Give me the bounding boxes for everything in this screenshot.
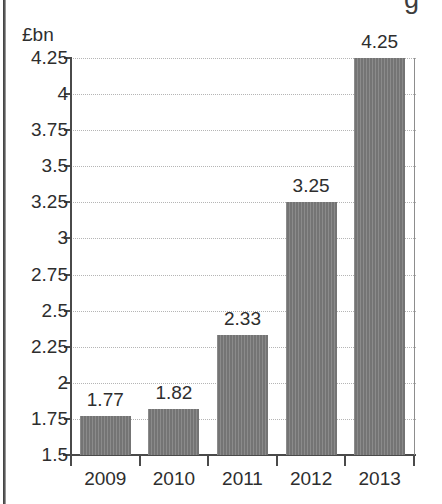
y-axis-tick-label: 2.5	[42, 300, 68, 322]
x-axis-tick-label: 2011	[222, 468, 263, 490]
x-axis-tick	[276, 455, 278, 466]
y-axis-line	[70, 57, 72, 456]
x-axis-tick-label: 2010	[153, 468, 195, 490]
x-axis-tick-label: 2009	[84, 468, 126, 490]
bar-value-label: 2.33	[224, 308, 261, 330]
bar	[148, 409, 199, 455]
bar-value-label: 1.82	[155, 382, 192, 404]
y-axis-tick-label: 3	[57, 227, 68, 249]
x-axis-tick	[139, 455, 141, 466]
bar	[217, 335, 268, 455]
y-axis-tick-label: 3.5	[42, 155, 68, 177]
bar-value-label: 3.25	[293, 175, 330, 197]
y-axis-tick-label: 4.25	[31, 47, 68, 69]
bar-value-label: 1.77	[87, 389, 124, 411]
x-axis-tick	[207, 455, 209, 466]
y-axis-tick-label: 2.25	[31, 336, 68, 358]
y-axis-unit-label: £bn	[22, 24, 54, 46]
y-axis-tick-label: 4	[57, 83, 68, 105]
y-axis-tick-label: 3.75	[31, 119, 68, 141]
bar-value-label: 4.25	[361, 31, 398, 53]
bar	[80, 416, 131, 455]
x-axis-tick	[413, 455, 415, 466]
cropped-title-glyph: g	[404, 0, 419, 13]
x-axis-tick-label: 2013	[359, 468, 401, 490]
x-axis-tick	[70, 455, 72, 466]
bar	[286, 202, 337, 455]
page-scan-edge	[3, 0, 6, 504]
x-axis-tick-label: 2012	[290, 468, 332, 490]
chart-figure: g £bn 4.2543.753.53.2532.752.52.2521.751…	[0, 0, 442, 504]
y-axis-tick-label: 2.75	[31, 264, 68, 286]
bar	[354, 58, 405, 455]
x-axis-tick	[344, 455, 346, 466]
plot-right-edge	[414, 58, 415, 455]
y-axis-tick-label: 1.5	[42, 444, 68, 466]
y-axis-tick-label: 2	[57, 372, 68, 394]
y-axis-tick-label: 1.75	[31, 408, 68, 430]
y-axis-tick-label: 3.25	[31, 191, 68, 213]
